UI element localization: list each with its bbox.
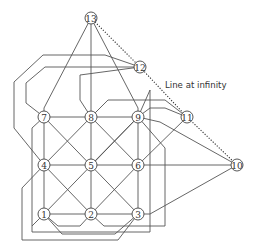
edge-1-2-lower: [44, 214, 91, 226]
node-9[interactable]: 9: [132, 111, 144, 123]
node-13[interactable]: 13: [85, 12, 97, 24]
node-7[interactable]: 7: [38, 111, 50, 123]
projective-plane-diagram: 13 12 7 8 9 11 4 5 6 10 1 2 3 Line at in…: [0, 0, 253, 250]
svg-text:2: 2: [88, 210, 94, 220]
svg-text:6: 6: [135, 161, 141, 171]
edge-13-7-4-1: [44, 18, 91, 214]
edge-12-8: [80, 67, 140, 117]
edge-11-9: [138, 108, 187, 117]
node-12[interactable]: 12: [134, 61, 146, 73]
node-10[interactable]: 10: [231, 159, 243, 171]
node-5[interactable]: 5: [85, 159, 97, 171]
svg-text:11: 11: [181, 113, 192, 123]
edge-2-3-lower: [91, 117, 165, 226]
edge-3-10: [138, 165, 237, 214]
svg-text:8: 8: [88, 113, 94, 123]
svg-text:4: 4: [41, 161, 47, 171]
edge-12-outer: [14, 55, 140, 165]
svg-text:13: 13: [85, 14, 97, 24]
node-11[interactable]: 11: [181, 111, 193, 123]
node-4[interactable]: 4: [38, 159, 50, 171]
edge-9-10: [138, 117, 237, 165]
svg-text:3: 3: [135, 210, 141, 220]
node-6[interactable]: 6: [132, 159, 144, 171]
node-8[interactable]: 8: [85, 111, 97, 123]
edge-11-6: [138, 117, 187, 165]
node-1[interactable]: 1: [38, 208, 50, 220]
svg-text:5: 5: [88, 161, 94, 171]
svg-text:7: 7: [41, 113, 47, 123]
svg-text:1: 1: [41, 210, 47, 220]
svg-text:9: 9: [135, 113, 141, 123]
svg-text:12: 12: [134, 63, 145, 73]
edge-13-9-6-3: [91, 18, 138, 214]
line-at-infinity-label: Line at infinity: [165, 80, 227, 90]
node-2[interactable]: 2: [85, 208, 97, 220]
svg-text:10: 10: [231, 161, 243, 171]
node-3[interactable]: 3: [132, 208, 144, 220]
